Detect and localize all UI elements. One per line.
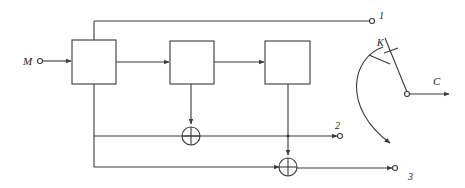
terminal-out-3[interactable] (393, 166, 398, 171)
label-output-C: C (433, 76, 440, 87)
terminal-switch-pivot[interactable] (405, 92, 410, 97)
terminal-input-M[interactable] (38, 59, 43, 64)
junction-dot-stage3-rail2 (287, 135, 290, 138)
switch-fixed-contact-lead (369, 55, 390, 64)
label-switch-K: K (377, 38, 384, 48)
stage-2-block (170, 41, 214, 84)
block-diagram-svg (0, 0, 465, 188)
label-tap-1: 1 (379, 11, 384, 21)
terminal-out-2[interactable] (338, 134, 343, 139)
stage-1-block (72, 40, 116, 84)
label-tap-2: 2 (335, 121, 340, 131)
label-input-M: M (23, 56, 32, 67)
diagram-canvas: M C K 1 2 3 (0, 0, 465, 188)
switch-blade-K (385, 38, 407, 92)
stage-3-block (265, 41, 310, 84)
label-tap-3: 3 (408, 172, 413, 182)
terminal-out-1[interactable] (370, 19, 375, 24)
